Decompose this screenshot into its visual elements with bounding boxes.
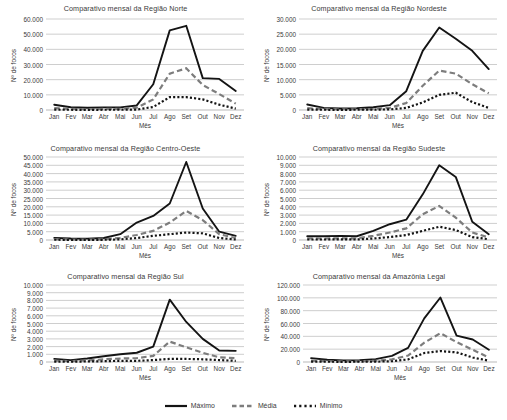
x-axis-label: Mês xyxy=(299,252,497,259)
y-axis-tick: 0 xyxy=(0,107,43,114)
y-axis-tick: 30.000 xyxy=(253,16,296,23)
x-axis-tick: Ago xyxy=(162,113,179,120)
y-axis-tick: 5.000 xyxy=(253,195,296,202)
x-axis-tick: Nov xyxy=(465,365,481,372)
y-axis-tick: 20.000 xyxy=(0,76,43,83)
x-axis-tick: Jan xyxy=(46,365,63,372)
x-axis-tick: Dez xyxy=(481,365,497,372)
x-axis-tick: Dez xyxy=(481,243,498,250)
x-axis-tick: Jun xyxy=(129,113,146,120)
y-axis-tick: 45.000 xyxy=(0,162,43,169)
legend-label: Média xyxy=(258,403,277,410)
x-axis-tick: Set xyxy=(431,243,448,250)
x-axis-tick: Fev xyxy=(316,113,333,120)
x-axis-tick: Jul xyxy=(145,113,162,120)
x-axis-tick: Mai xyxy=(112,113,129,120)
x-axis-tick: Mar xyxy=(332,113,349,120)
x-axis-tick: Out xyxy=(195,113,212,120)
x-axis-tick: Set xyxy=(432,365,448,372)
x-axis-tick: Jun xyxy=(129,365,146,372)
y-axis-tick: 30.000 xyxy=(0,61,43,68)
series-line-média xyxy=(54,68,236,109)
x-axis-tick: Jul xyxy=(398,113,415,120)
x-axis-tick: Set xyxy=(178,243,195,250)
chart-panel: Comparativo mensal da Amazônia Legal020.… xyxy=(253,268,507,390)
x-axis-tick: Mar xyxy=(79,243,96,250)
x-axis-tick: Fev xyxy=(63,113,80,120)
y-axis-label: Nº de focos xyxy=(10,49,17,82)
x-axis-tick: Dez xyxy=(228,365,245,372)
x-axis-label: Mês xyxy=(299,122,497,129)
y-axis-tick: 35.000 xyxy=(0,178,43,185)
x-axis-tick: Mar xyxy=(332,243,349,250)
x-axis-tick: Ago xyxy=(162,365,179,372)
legend-swatch-solid xyxy=(165,402,187,410)
x-axis-tick: Fev xyxy=(63,365,80,372)
x-axis-tick: Set xyxy=(431,113,448,120)
x-axis-tick: Jan xyxy=(46,243,63,250)
y-axis-tick: 3.000 xyxy=(0,335,43,342)
x-axis-tick: Ago xyxy=(415,243,432,250)
x-axis-tick: Jan xyxy=(46,113,63,120)
y-axis-tick: 2.000 xyxy=(253,220,296,227)
y-axis-label: Nº de focos xyxy=(263,49,270,82)
y-axis-tick: 10.000 xyxy=(0,282,43,289)
y-axis-tick: 9.000 xyxy=(253,162,296,169)
x-axis-tick: Abr xyxy=(352,365,368,372)
chart-panel: Comparativo mensal da Região Nordeste05.… xyxy=(253,0,507,140)
y-axis-tick: 10.000 xyxy=(0,220,43,227)
x-axis-tick: Jan xyxy=(299,243,316,250)
x-axis-tick: Mai xyxy=(368,365,384,372)
series-line-média xyxy=(307,71,489,110)
series-line-máximo xyxy=(307,27,489,108)
x-axis-tick: Mai xyxy=(365,243,382,250)
legend-item: Máximo xyxy=(165,402,215,410)
legend-item: Mínimo xyxy=(294,402,343,410)
chart-panel: Comparativo mensal da Região Centro-Oest… xyxy=(0,140,253,268)
y-axis-tick: 0 xyxy=(253,107,296,114)
x-axis-tick: Jun xyxy=(384,365,400,372)
y-axis-tick: 3.000 xyxy=(253,212,296,219)
legend-item: Média xyxy=(232,402,277,410)
x-axis-tick: Jun xyxy=(382,243,399,250)
x-axis-tick: Jun xyxy=(382,113,399,120)
y-axis-tick: 0 xyxy=(253,237,296,244)
x-axis-tick: Set xyxy=(178,113,195,120)
y-axis-tick: 40.000 xyxy=(0,170,43,177)
y-axis-tick: 100.000 xyxy=(253,294,300,301)
charts-grid: Comparativo mensal da Região Norte010.00… xyxy=(0,0,507,390)
series-line-máximo xyxy=(54,26,236,108)
legend-swatch-dashed xyxy=(232,402,254,410)
x-axis-tick: Nov xyxy=(211,243,228,250)
chart-panel: Comparativo mensal da Região Norte010.00… xyxy=(0,0,253,140)
x-axis-tick: Nov xyxy=(211,113,228,120)
series-line-máximo xyxy=(311,298,489,361)
x-axis-tick: Dez xyxy=(228,113,245,120)
y-axis-tick: 8.000 xyxy=(0,297,43,304)
legend-label: Máximo xyxy=(191,403,215,410)
x-axis-tick: Dez xyxy=(481,113,498,120)
y-axis-label: Nº de focos xyxy=(263,183,270,216)
x-axis-tick: Jan xyxy=(303,365,319,372)
y-axis-tick: 0 xyxy=(253,359,300,366)
x-axis-tick: Out xyxy=(195,243,212,250)
y-axis-label: Nº de focos xyxy=(263,308,270,341)
chart-panel: Comparativo mensal da Região Sul01.0002.… xyxy=(0,268,253,390)
y-axis-tick: 7.000 xyxy=(253,178,296,185)
y-axis-tick: 6.000 xyxy=(253,187,296,194)
series-line-máximo xyxy=(307,165,489,236)
y-axis-tick: 10.000 xyxy=(0,91,43,98)
y-axis-tick: 10.000 xyxy=(253,154,296,161)
series-line-máximo xyxy=(54,300,236,360)
x-axis-tick: Out xyxy=(195,365,212,372)
y-axis-tick: 120.000 xyxy=(253,282,300,289)
x-axis-tick: Mai xyxy=(112,365,129,372)
x-axis-tick: Mai xyxy=(365,113,382,120)
y-axis-tick: 25.000 xyxy=(253,31,296,38)
y-axis-tick: 20.000 xyxy=(253,46,296,53)
x-axis-tick: Jul xyxy=(145,243,162,250)
x-axis-tick: Ago xyxy=(416,365,432,372)
x-axis-tick: Out xyxy=(448,113,465,120)
y-axis-tick: 5.000 xyxy=(0,320,43,327)
x-axis-tick: Fev xyxy=(316,243,333,250)
